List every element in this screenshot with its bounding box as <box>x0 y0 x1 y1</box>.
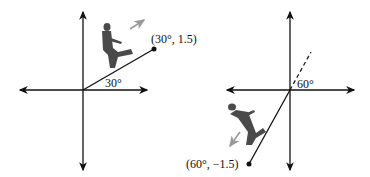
walker-figure-icon <box>102 23 133 68</box>
right-axes <box>227 12 354 170</box>
right-ray <box>249 90 290 164</box>
left-angle-label: 30° <box>105 76 122 90</box>
motion-arrow-icon <box>130 20 144 29</box>
right-angle-label: 60° <box>297 77 314 91</box>
motion-arrow-icon <box>230 132 240 146</box>
right-diagram: 60° (60°, −1.5) <box>186 12 354 171</box>
left-diagram: (30°, 1.5) 30° <box>20 12 197 170</box>
polar-diagrams: (30°, 1.5) 30° 60° (60°, −1.5) <box>0 0 370 177</box>
left-axes <box>20 12 147 170</box>
left-point-label: (30°, 1.5) <box>151 32 197 46</box>
walker-figure-icon <box>228 104 266 146</box>
right-point-label: (60°, −1.5) <box>186 157 239 171</box>
left-point <box>152 47 157 52</box>
right-point <box>247 162 252 167</box>
